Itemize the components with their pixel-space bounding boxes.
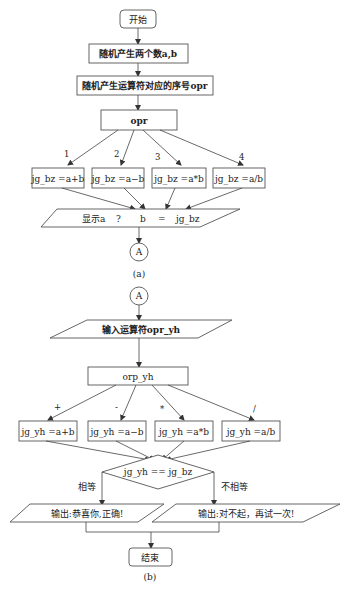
display-b: b — [140, 214, 146, 224]
branch-box-div-label: jg_bz =a/b — [214, 174, 263, 185]
end-label: 结束 — [141, 552, 159, 563]
arrow-branch-4 — [160, 130, 243, 165]
display-prefix: 显示a — [82, 214, 106, 224]
arrow-branch-3 — [143, 130, 181, 165]
switch-opr-label: opr — [130, 116, 147, 126]
start-label: 开始 — [129, 14, 147, 25]
branch-box-yh-sub-label: jg_yh =a−b — [89, 427, 143, 438]
branch-label-3: 3 — [155, 152, 160, 162]
branch-label-4: 4 — [239, 152, 244, 162]
branch-box-mul-label: jg_bz =a*b — [153, 174, 204, 185]
display-eq: = — [158, 214, 166, 224]
arrow-merge — [62, 188, 135, 209]
display-op: ? — [116, 214, 121, 224]
branch-box-yh-mul-label: jg_yh =a*b — [158, 427, 209, 438]
branch-label-2: 2 — [114, 149, 119, 159]
switch-orp-yh-label: orp_yh — [123, 372, 154, 383]
arrow-merge — [166, 441, 250, 460]
branch-label-1: 1 — [64, 149, 69, 159]
no-label: 不相等 — [221, 481, 248, 492]
process-random-numbers-label: 随机产生两个数a,b — [99, 48, 177, 60]
decision-compare-label: jg_yh == jg_bz — [123, 467, 193, 478]
branch-box-yh-add-label: jg_yh =a+b — [20, 427, 74, 438]
caption-a: (a) — [133, 269, 145, 279]
arrow-branch-1 — [68, 130, 118, 165]
arrow-branch-minus — [121, 385, 136, 420]
caption-b: (b) — [144, 572, 157, 582]
flowchart-canvas: 开始 随机产生两个数a,b 随机产生运算符对应的序号opr opr 1 2 3 … — [0, 0, 352, 594]
arrow-branch-times — [152, 385, 184, 420]
arrow-merge — [124, 188, 145, 209]
branch-box-add-label: jg_bz =a+b — [31, 174, 85, 185]
arrow-branch-2 — [121, 130, 134, 165]
branch-label-divide: / — [253, 404, 256, 414]
branch-label-times: * — [160, 404, 165, 414]
diagram-a: 开始 随机产生两个数a,b 随机产生运算符对应的序号opr opr 1 2 3 … — [31, 10, 265, 279]
branch-label-minus: - — [115, 402, 118, 412]
arrow-merge — [186, 188, 242, 209]
branch-box-sub-label: jg_bz =a−b — [91, 174, 145, 185]
process-random-operator-label: 随机产生运算符对应的序号opr — [82, 80, 207, 91]
display-result: jg_bz — [175, 214, 200, 225]
branch-label-plus: + — [54, 402, 61, 412]
diagram-b: A 输入运算符opr_yh orp_yh + - * / jg_yh =a+b … — [10, 287, 340, 582]
branch-box-yh-div-label: jg_yh =a/b — [226, 427, 276, 438]
output-correct-label: 输出:恭喜你,正确! — [51, 508, 124, 519]
arrow-branch-divide — [168, 385, 254, 420]
connector-a-out-label: A — [135, 247, 143, 257]
input-io-label: 输入运算符opr_yh — [102, 324, 181, 335]
merge-line — [86, 522, 219, 532]
connector-a-in-label: A — [135, 291, 143, 301]
yes-label: 相等 — [78, 481, 96, 492]
arrow-merge — [166, 188, 175, 209]
output-retry-label: 输出:对不起，再试一次! — [198, 508, 295, 519]
